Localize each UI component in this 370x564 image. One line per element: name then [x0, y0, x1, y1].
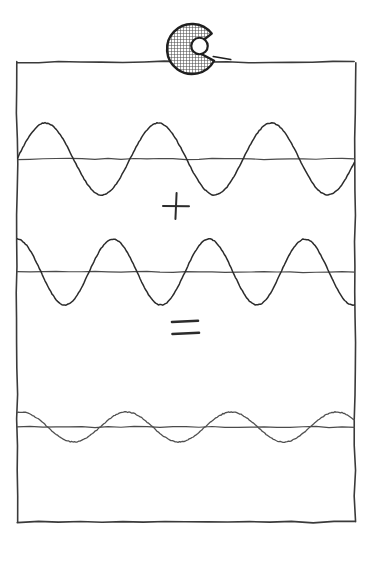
figure-canvas: [0, 0, 370, 564]
page-background: [0, 0, 370, 564]
wave-superposition-figure: Wave superposition diagram Hand-drawn fi…: [0, 0, 370, 564]
